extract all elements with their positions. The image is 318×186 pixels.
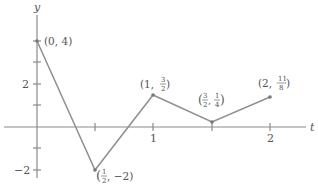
svg-text:2: 2 bbox=[203, 101, 207, 109]
svg-text:8: 8 bbox=[279, 84, 283, 92]
data-point-0 bbox=[35, 39, 39, 43]
svg-text:3: 3 bbox=[161, 76, 165, 84]
svg-text:): ) bbox=[286, 77, 290, 89]
t-axis-label: t bbox=[310, 121, 315, 134]
svg-text:2: 2 bbox=[161, 85, 165, 93]
annotation-p3: ( 3 2 , 1 4 ) bbox=[198, 92, 225, 109]
svg-text:2: 2 bbox=[102, 177, 106, 185]
svg-text:): ) bbox=[166, 78, 170, 90]
y-tick-label-minus-2: −2 bbox=[14, 164, 30, 177]
svg-text:, −2): , −2) bbox=[107, 170, 133, 182]
svg-text:): ) bbox=[220, 93, 225, 107]
annotation-p2: (1, 3 2 ) bbox=[140, 76, 170, 93]
data-point-3 bbox=[210, 120, 214, 124]
annotation-p4: (2, 11 8 ) bbox=[258, 75, 290, 92]
svg-text:1: 1 bbox=[215, 92, 219, 100]
x-tick-label-2: 2 bbox=[267, 132, 274, 145]
x-tick-label-1: 1 bbox=[150, 132, 157, 145]
svg-text:,: , bbox=[208, 95, 211, 106]
data-point-2 bbox=[151, 93, 155, 97]
chart-container: t y 1 2 2 −2 (0, 4) ( 1 2 , −2) bbox=[0, 0, 318, 186]
svg-text:1: 1 bbox=[102, 168, 106, 176]
y-axis-label: y bbox=[33, 1, 41, 14]
svg-text:3: 3 bbox=[203, 92, 207, 100]
annotation-p1: ( 1 2 , −2) bbox=[96, 168, 133, 185]
svg-text:(2,: (2, bbox=[258, 77, 272, 89]
svg-text:(: ( bbox=[96, 168, 101, 183]
svg-text:(: ( bbox=[198, 93, 203, 107]
y-tick-label-2: 2 bbox=[22, 78, 29, 91]
data-point-4 bbox=[268, 95, 272, 99]
annotation-p0: (0, 4) bbox=[44, 35, 72, 47]
series-line bbox=[37, 41, 270, 170]
svg-text:(1,: (1, bbox=[140, 78, 154, 90]
line-chart: t y 1 2 2 −2 (0, 4) ( 1 2 , −2) bbox=[0, 0, 318, 186]
